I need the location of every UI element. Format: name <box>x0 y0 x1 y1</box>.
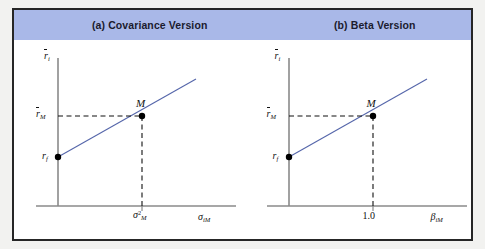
data-point-market-b <box>369 113 375 119</box>
panel-title-beta: (b) Beta Version <box>334 19 416 31</box>
x-axis-label-b: βiM <box>431 212 443 223</box>
security-market-line-a <box>58 79 196 157</box>
y-tick-label-rf-a: rf <box>42 151 48 162</box>
y-tick-label-rbar-m-a: rM <box>36 109 45 120</box>
figure-container: (a) Covariance Version (b) Beta Version <box>0 0 485 249</box>
plot-covariance-version: ri rM rf σ2M σiM M <box>14 40 245 241</box>
plot-beta-version: ri rM rf 1.0 βiM M <box>245 40 474 241</box>
panel-title-covariance: (a) Covariance Version <box>92 19 207 31</box>
x-tick-label-sigma-sq-m-a: σ2M <box>133 210 147 222</box>
point-label-market-b: M <box>367 98 376 109</box>
y-tick-label-rf-b: rf <box>273 151 279 162</box>
point-label-market-a: M <box>136 98 145 109</box>
y-tick-label-rbar-m-b: rM <box>267 109 276 120</box>
data-point-riskfree-a <box>55 154 61 160</box>
plot-a-canvas <box>14 40 244 241</box>
plot-b-canvas <box>245 40 474 241</box>
x-axis-label-a: σiM <box>198 212 210 223</box>
y-axis-label-b: ri <box>275 51 281 62</box>
security-market-line-b <box>289 79 427 157</box>
x-tick-label-one-b: 1.0 <box>363 211 376 221</box>
figure-frame: (a) Covariance Version (b) Beta Version <box>12 8 473 241</box>
data-point-riskfree-b <box>285 154 291 160</box>
y-axis-label-a: ri <box>44 51 50 62</box>
data-point-market-a <box>139 113 145 119</box>
